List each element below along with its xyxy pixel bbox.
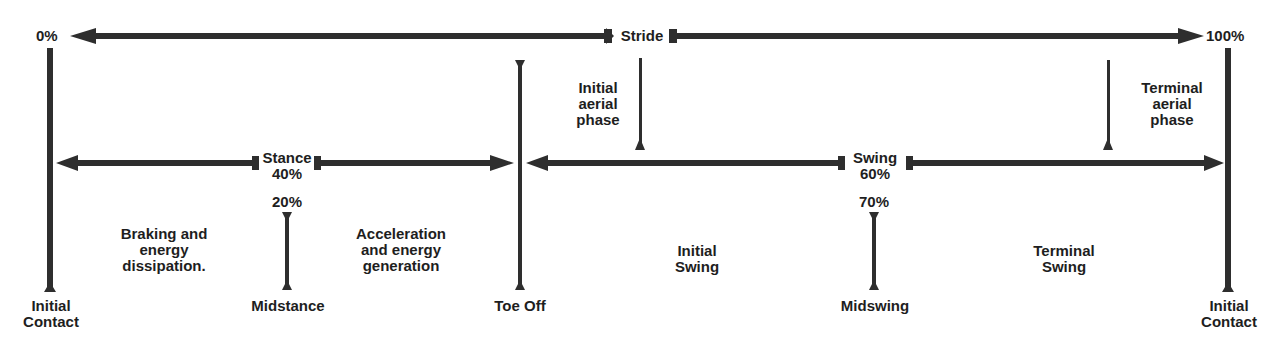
stride-arrow-left: [70, 28, 614, 44]
stride-label: Stride: [614, 28, 670, 44]
stride-end-percent: 100%: [1206, 28, 1244, 44]
initial-contact-end-line: [1225, 48, 1231, 290]
gait-cycle-diagram: [0, 0, 1274, 338]
terminal-aerial-phase-label: Terminal aerial phase: [1132, 80, 1212, 128]
acceleration-description: Acceleration and energy generation: [346, 226, 456, 274]
initial-contact-end-label: Initial Contact: [1198, 298, 1260, 330]
midswing-marker: [869, 212, 879, 290]
initial-aerial-phase-label: Initial aerial phase: [568, 80, 628, 128]
midstance-marker: [282, 212, 292, 290]
terminal-swing-description: Terminal Swing: [1024, 243, 1104, 275]
initial-contact-start-label: Initial Contact: [20, 298, 82, 330]
terminal-aerial-marker: [1103, 60, 1113, 150]
initial-aerial-marker: [635, 58, 645, 150]
toe-off-label: Toe Off: [486, 298, 554, 314]
midstance-percent: 20%: [265, 194, 309, 210]
toe-off-line: [515, 60, 525, 290]
stride-start-percent: 0%: [36, 28, 58, 44]
swing-label: Swing 60%: [844, 150, 906, 182]
midstance-label: Midstance: [240, 298, 336, 314]
midswing-percent: 70%: [852, 194, 896, 210]
initial-contact-start-line: [47, 48, 53, 290]
stance-label: Stance 40%: [258, 150, 316, 182]
stride-arrow-right: [669, 28, 1204, 44]
braking-description: Braking and energy dissipation.: [108, 226, 220, 274]
midswing-label: Midswing: [830, 298, 920, 314]
initial-swing-description: Initial Swing: [662, 243, 732, 275]
